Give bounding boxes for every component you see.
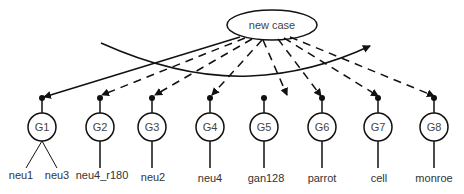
leaf-label-cell: cell <box>371 172 388 184</box>
leaf-label-neu4: neu4 <box>198 172 222 184</box>
edge-g5 <box>263 40 287 95</box>
node-label-g5: G5 <box>257 121 272 133</box>
node-label-g8: G8 <box>427 121 442 133</box>
node-label-g3: G3 <box>145 121 160 133</box>
leaf-label-parrot: parrot <box>308 172 337 184</box>
leaf-label-gan128: gan128 <box>248 172 285 184</box>
root-node-label: new case <box>249 19 295 31</box>
node-label-g6: G6 <box>315 121 330 133</box>
leaf-label-neu2: neu2 <box>141 171 165 183</box>
leaf-label-neu1: neu1 <box>9 169 33 181</box>
edge-g2 <box>102 38 245 95</box>
leaf-label-neu3: neu3 <box>45 169 69 181</box>
edge-g7 <box>284 38 378 96</box>
node-label-g2: G2 <box>93 121 108 133</box>
edge-g1 <box>44 37 240 97</box>
diagram-canvas <box>0 0 464 194</box>
node-label-g4: G4 <box>203 121 218 133</box>
node-label-g1: G1 <box>35 121 50 133</box>
node-label-g7: G7 <box>371 121 386 133</box>
leaf-label-monroe: monroe <box>415 172 452 184</box>
leaf-label-neu4-r180: neu4_r180 <box>76 169 129 181</box>
